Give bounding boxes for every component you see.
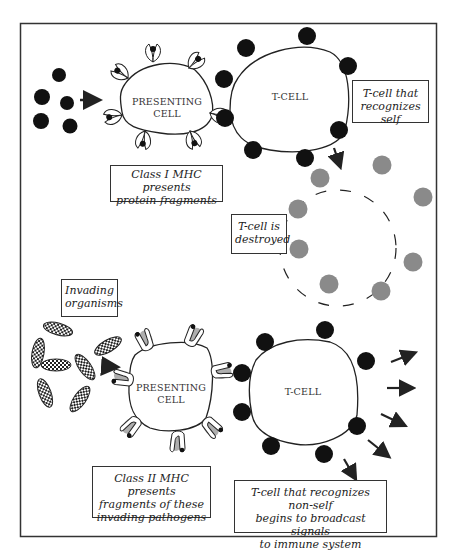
caption-line: Invading xyxy=(65,284,114,297)
label-line: PRESENTING xyxy=(130,382,212,394)
caption-line: invading pathogens xyxy=(96,511,207,524)
t-cell-top-label: T-CELL xyxy=(255,91,325,103)
caption-line: recognizes self xyxy=(356,100,425,126)
caption-class-ii-mhc: Class II MHC presents fragments of these… xyxy=(92,466,211,518)
destroyed-t-cell xyxy=(280,156,433,307)
caption-t-cell-destroyed: T-cell is destroyed xyxy=(231,214,287,254)
caption-line: Class I MHC presents xyxy=(114,168,219,194)
caption-invading-organisms: Invading organisms xyxy=(61,279,118,317)
caption-line: begins to broadcast signals xyxy=(238,512,383,538)
caption-line: to immune system xyxy=(238,538,383,551)
caption-class-i-mhc: Class I MHC presents protein fragments xyxy=(110,165,223,202)
arrow-to-presenting-cell-bottom xyxy=(102,366,116,367)
caption-recognizes-non-self: T-cell that recognizes non-self begins t… xyxy=(234,480,387,533)
label-line: CELL xyxy=(122,108,212,120)
presenting-cell-bottom-label: PRESENTING CELL xyxy=(130,382,212,406)
caption-line: protein fragments xyxy=(114,194,219,207)
caption-line: organisms xyxy=(65,297,114,310)
caption-line: T-cell that recognizes non-self xyxy=(238,486,383,512)
arrow-to-destroyed xyxy=(334,148,340,166)
caption-line: T-cell that xyxy=(356,87,425,100)
immune-diagram: PRESENTING CELL T-CELL PRESENTING CELL T… xyxy=(0,0,457,555)
t-cell-bottom-label: T-CELL xyxy=(268,386,338,398)
caption-line: Class II MHC presents xyxy=(96,472,207,498)
label-line: CELL xyxy=(130,394,212,406)
caption-recognizes-self: T-cell that recognizes self xyxy=(352,80,429,123)
presenting-cell-top-label: PRESENTING CELL xyxy=(122,96,212,120)
caption-line: destroyed xyxy=(235,233,283,246)
caption-line: T-cell is xyxy=(235,220,283,233)
caption-line: fragments of these xyxy=(96,498,207,511)
self-protein-fragments xyxy=(33,68,78,134)
label-line: PRESENTING xyxy=(122,96,212,108)
